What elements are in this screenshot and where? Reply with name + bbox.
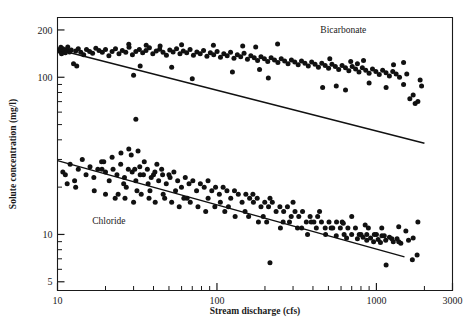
data-point [358,232,363,237]
data-point [103,47,108,52]
data-point [92,188,97,193]
data-point [266,75,271,80]
series-annotation-bicarbonate: Bicarbonate [320,25,366,35]
y-axis-tick-label: 5 [48,276,53,287]
data-point [377,72,382,77]
data-point [411,235,416,240]
data-point [63,172,68,177]
data-point [355,236,360,241]
data-point [206,196,211,201]
x-axis-tick-label: 3000 [443,295,463,306]
data-point [275,41,280,46]
data-point [232,188,237,193]
data-point [410,257,415,262]
data-point [319,220,324,225]
data-point [346,68,351,73]
data-point [265,59,270,64]
data-point [183,175,188,180]
data-point [327,220,332,225]
data-point [314,225,319,230]
data-point [84,172,89,177]
data-point [177,204,182,209]
x-axis-tick-label: 1000 [366,295,386,306]
data-point [211,43,216,48]
data-point [338,225,343,230]
data-point [315,214,320,219]
data-point [124,185,129,190]
y-axis-tick-label: 10 [43,229,53,240]
data-point [106,53,111,58]
data-point [130,169,135,174]
data-point [162,196,167,201]
data-point [154,162,159,167]
data-point [134,188,139,193]
data-point [169,65,174,70]
data-point [153,200,158,205]
data-point [349,214,354,219]
x-axis-tick-label: 10 [53,295,63,306]
data-point [240,44,245,49]
data-point [171,169,176,174]
data-point [72,178,77,183]
data-point [403,229,408,234]
data-point [65,181,70,186]
data-point [367,80,372,85]
data-point [289,214,294,219]
data-point [316,65,321,70]
data-point [159,167,164,172]
data-point [142,159,147,164]
data-point [384,85,389,90]
data-point [126,146,131,151]
data-point [293,209,298,214]
data-point [326,66,331,71]
data-point [116,192,121,197]
data-point [113,46,118,51]
data-point [175,178,180,183]
data-point [396,239,401,244]
data-point [158,44,163,49]
data-point [206,178,211,183]
data-point [356,70,361,75]
data-point [230,70,235,75]
data-point [267,196,272,201]
data-point [74,63,79,68]
data-point [300,209,305,214]
x-axis-title: Stream discharge (cfs) [210,306,301,317]
data-point [190,76,195,81]
data-point [391,62,396,67]
data-point [309,220,314,225]
data-point [348,59,353,64]
data-point [90,51,95,56]
data-point [251,200,256,205]
y-axis-tick-label: 100 [38,72,53,83]
data-point [69,48,74,53]
data-point [406,238,411,243]
regression-line-bicarbonate [58,50,425,144]
data-point [222,209,227,214]
data-point [404,71,409,76]
data-point [286,61,291,66]
data-point [240,200,245,205]
data-point [221,185,226,190]
data-point [194,188,199,193]
data-point [411,93,416,98]
data-point [285,204,290,209]
data-point [247,196,252,201]
data-point [250,192,255,197]
data-point [233,214,238,219]
data-point [242,51,247,56]
data-point [382,233,387,238]
data-point [110,155,115,160]
figure-container: 5101002001010010003000BicarbonateChlorid… [0,0,473,327]
data-point [118,162,123,167]
data-point [188,200,193,205]
data-point [296,62,301,67]
data-point [267,260,272,265]
data-point [262,200,267,205]
data-point [190,178,195,183]
data-point [107,178,112,183]
data-point [145,167,150,172]
data-point [138,63,143,68]
data-point [415,99,420,104]
data-point [156,178,161,183]
